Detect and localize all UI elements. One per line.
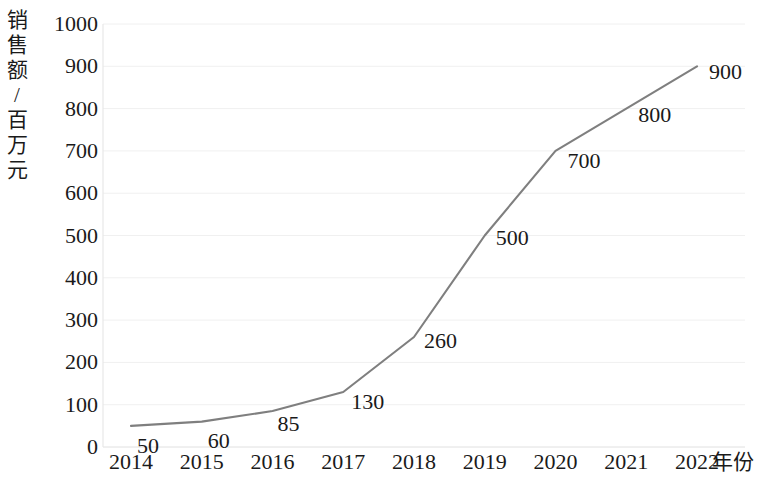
- x-tick-label: 2020: [516, 450, 596, 474]
- x-tick-label: 2019: [445, 450, 525, 474]
- x-tick-label: 2018: [374, 450, 454, 474]
- x-tick-label: 2017: [303, 450, 383, 474]
- x-tick-label: 2022: [657, 450, 737, 474]
- x-tick-label: 2021: [586, 450, 666, 474]
- line-chart: 销 售 额 / 百 万 元 01002003004005006007008009…: [0, 0, 767, 477]
- x-tick-label: 2016: [233, 450, 313, 474]
- x-axis-tick-labels: 年份 201420152016201720182019202020212022: [0, 0, 767, 477]
- x-tick-label: 2014: [91, 450, 171, 474]
- x-tick-label: 2015: [162, 450, 242, 474]
